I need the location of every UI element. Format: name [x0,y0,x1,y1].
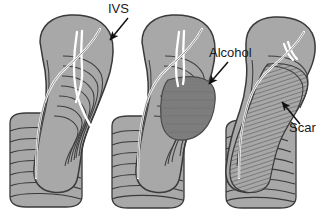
figure-canvas: IVS Alcohol Scar [0,0,326,212]
panel-before [10,15,113,207]
label-ivs: IVS [108,1,129,16]
label-alcohol: Alcohol [209,45,252,60]
label-scar: Scar [289,120,316,135]
ivs-arrow [110,18,128,40]
septum-body-panel1 [34,15,113,193]
panel-alcohol [112,15,215,208]
septal-ablation-figure: IVS Alcohol Scar [0,0,326,212]
